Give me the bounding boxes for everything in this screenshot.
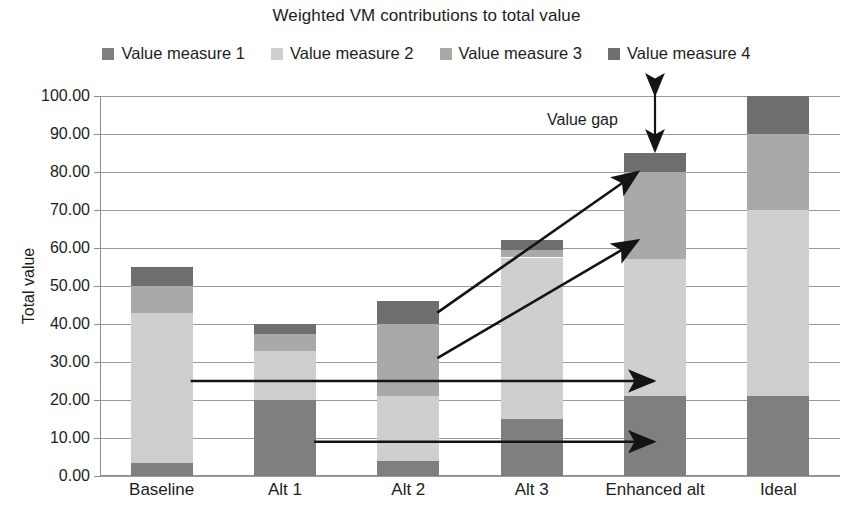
plot-area: 0.0010.0020.0030.0040.0050.0060.0070.008… — [100, 96, 840, 476]
gridline — [100, 172, 840, 173]
stacked-bar[interactable] — [254, 96, 316, 476]
y-axis-tick-label: 40.00 — [50, 315, 90, 333]
y-axis-tick — [94, 400, 100, 401]
gridline — [100, 362, 840, 363]
legend-item[interactable]: Value measure 4 — [608, 44, 751, 63]
gridline — [100, 438, 840, 439]
y-axis-tick-label: 30.00 — [50, 353, 90, 371]
stacked-bar[interactable] — [377, 96, 439, 476]
bar-segment[interactable] — [747, 396, 809, 476]
bar-segment[interactable] — [254, 334, 316, 351]
y-axis-tick — [94, 476, 100, 477]
legend-item-label: Value measure 3 — [459, 44, 583, 63]
bar-segment[interactable] — [624, 153, 686, 172]
bar-group[interactable] — [377, 96, 439, 476]
bar-group[interactable] — [131, 96, 193, 476]
stacked-bar[interactable] — [501, 96, 563, 476]
legend-swatch-icon — [608, 48, 620, 60]
gridline — [100, 248, 840, 249]
chart-legend: Value measure 1Value measure 2Value meas… — [0, 44, 853, 63]
y-axis-tick — [94, 134, 100, 135]
chart-container: Weighted VM contributions to total value… — [0, 0, 853, 520]
bar-group[interactable] — [747, 96, 809, 476]
x-axis-tick-label: Ideal — [698, 480, 853, 500]
gridline — [100, 210, 840, 211]
bar-segment[interactable] — [624, 172, 686, 259]
gridline — [100, 134, 840, 135]
stacked-bar[interactable] — [624, 96, 686, 476]
legend-item-label: Value measure 1 — [121, 44, 245, 63]
y-axis-tick-label: 80.00 — [50, 163, 90, 181]
y-axis-tick-label: 60.00 — [50, 239, 90, 257]
y-axis-tick — [94, 248, 100, 249]
bar-segment[interactable] — [254, 400, 316, 476]
y-axis-tick-label: 50.00 — [50, 277, 90, 295]
y-axis-tick-label: 20.00 — [50, 391, 90, 409]
bar-group[interactable] — [254, 96, 316, 476]
bar-segment[interactable] — [501, 250, 563, 258]
y-axis-tick — [94, 362, 100, 363]
legend-swatch-icon — [102, 48, 114, 60]
legend-swatch-icon — [271, 48, 283, 60]
y-axis-tick — [94, 286, 100, 287]
bar-group[interactable] — [501, 96, 563, 476]
bar-segment[interactable] — [131, 286, 193, 313]
gridline — [100, 324, 840, 325]
chart-title: Weighted VM contributions to total value — [0, 6, 853, 26]
bar-segment[interactable] — [131, 463, 193, 476]
bar-segment[interactable] — [254, 324, 316, 334]
bar-segment[interactable] — [377, 301, 439, 324]
legend-item[interactable]: Value measure 2 — [271, 44, 414, 63]
legend-item[interactable]: Value measure 3 — [440, 44, 583, 63]
legend-swatch-icon — [440, 48, 452, 60]
bar-segment[interactable] — [131, 313, 193, 463]
y-axis-tick — [94, 96, 100, 97]
bar-segment[interactable] — [624, 396, 686, 476]
y-axis-label: Total value — [20, 248, 38, 325]
bar-segment[interactable] — [747, 96, 809, 134]
bar-segment[interactable] — [747, 134, 809, 210]
bar-segment[interactable] — [624, 259, 686, 396]
bar-segment[interactable] — [254, 351, 316, 400]
y-axis-tick — [94, 172, 100, 173]
y-axis-tick-label: 10.00 — [50, 429, 90, 447]
bar-segment[interactable] — [131, 267, 193, 286]
gridline — [100, 400, 840, 401]
y-axis-tick — [94, 324, 100, 325]
value-gap-label: Value gap — [547, 111, 618, 129]
bar-segment[interactable] — [501, 258, 563, 420]
y-axis-tick-label: 70.00 — [50, 201, 90, 219]
gridline — [100, 96, 840, 97]
bar-segment[interactable] — [501, 419, 563, 476]
y-axis-tick — [94, 210, 100, 211]
bar-segment[interactable] — [377, 324, 439, 396]
legend-item[interactable]: Value measure 1 — [102, 44, 245, 63]
y-axis-tick-label: 100.00 — [41, 87, 90, 105]
stacked-bar[interactable] — [747, 96, 809, 476]
y-axis-tick-label: 90.00 — [50, 125, 90, 143]
bar-segment[interactable] — [377, 396, 439, 461]
bar-group[interactable] — [624, 96, 686, 476]
bar-segment[interactable] — [747, 210, 809, 396]
bar-segment[interactable] — [377, 461, 439, 476]
legend-item-label: Value measure 4 — [627, 44, 751, 63]
legend-item-label: Value measure 2 — [290, 44, 414, 63]
stacked-bar[interactable] — [131, 96, 193, 476]
bar-segment[interactable] — [501, 240, 563, 250]
y-axis-tick — [94, 438, 100, 439]
gridline — [100, 476, 840, 477]
gridline — [100, 286, 840, 287]
